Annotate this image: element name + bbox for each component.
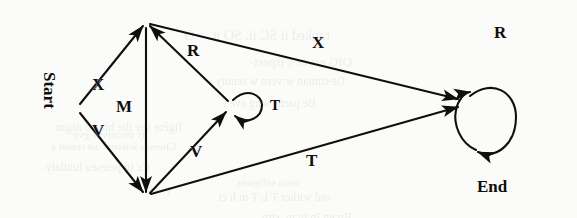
figure-canvas: ranked it SC it. SO it. = OOIG eevee-r i… <box>0 0 577 218</box>
self-loop-middle <box>233 93 262 120</box>
self-loop-label-r: R <box>494 24 506 41</box>
self-loop-end-left <box>455 92 476 150</box>
edge-label-m-top-bottom: M <box>116 98 132 115</box>
edge-label-x-start-top: X <box>92 76 104 93</box>
edge-start-to-top <box>80 26 143 104</box>
self-loop-label-t: T <box>270 98 280 113</box>
self-loop-end-right <box>470 88 516 154</box>
node-label-start: Start <box>41 72 58 109</box>
edge-top-to-end <box>150 24 458 99</box>
edge-label-v-bottom-middle: V <box>190 143 202 160</box>
node-label-end: End <box>477 178 507 195</box>
edge-label-t-bottom-end: T <box>306 152 317 169</box>
edge-label-x-top-end: X <box>312 34 324 51</box>
edge-start-to-bottom <box>80 113 143 192</box>
edge-label-r-middle-top: R <box>187 42 199 59</box>
edge-bottom-to-middle <box>150 112 226 193</box>
edge-middle-to-top <box>150 26 228 101</box>
edge-label-v-start-bottom: V <box>92 122 104 139</box>
